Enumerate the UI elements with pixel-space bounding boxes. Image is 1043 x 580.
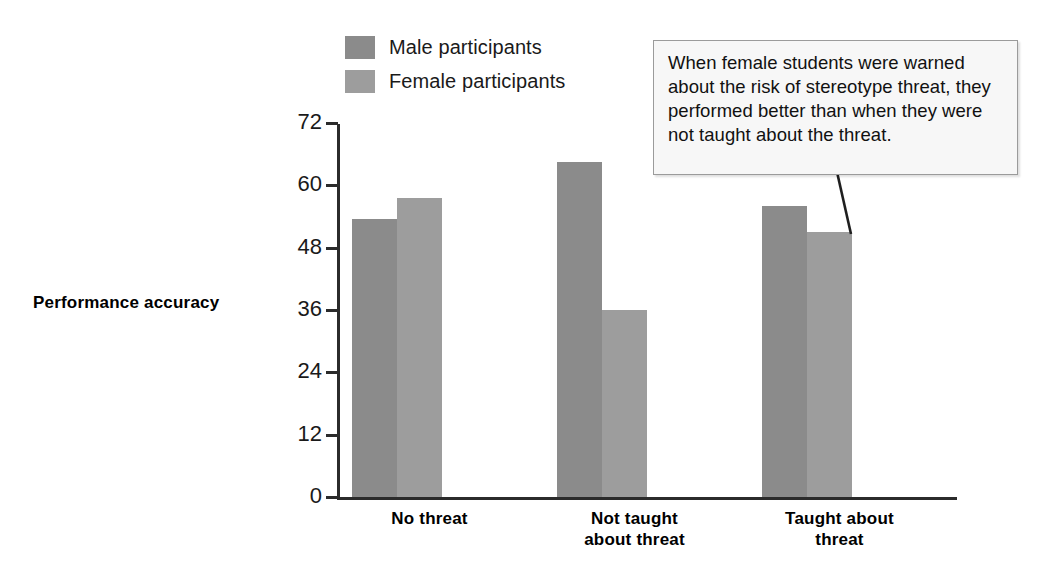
legend-swatch-female-icon — [345, 70, 375, 93]
callout-text: When female students were warned about t… — [668, 51, 1008, 147]
bar-female-group-1 — [602, 310, 647, 497]
x-axis-label-1: Not taughtabout threat — [537, 508, 732, 550]
y-tick-label: 72 — [276, 111, 322, 133]
bar-male-group-0 — [352, 219, 397, 497]
x-axis-label-0: No threat — [332, 508, 527, 529]
y-tick-label: 12 — [276, 423, 322, 445]
legend-label-male: Male participants — [389, 36, 542, 59]
legend-swatch-male-icon — [345, 36, 375, 59]
y-tick-label: 24 — [276, 360, 322, 382]
callout-box: When female students were warned about t… — [653, 40, 1018, 175]
y-tick-mark — [326, 371, 338, 374]
bar-male-group-2 — [762, 206, 807, 497]
y-tick-mark — [326, 184, 338, 187]
y-axis-title: Performance accuracy — [33, 293, 219, 313]
bar-female-group-2 — [807, 232, 852, 497]
y-tick-mark — [326, 434, 338, 437]
legend-label-female: Female participants — [389, 70, 565, 93]
y-tick-mark — [326, 247, 338, 250]
chart-legend: Male participants Female participants — [345, 33, 565, 95]
bar-female-group-0 — [397, 198, 442, 497]
y-tick-label: 0 — [276, 485, 322, 507]
x-axis-label-2: Taught aboutthreat — [742, 508, 937, 550]
y-tick-mark — [326, 122, 338, 125]
y-tick-label: 36 — [276, 298, 322, 320]
x-axis-labels: No threatNot taughtabout threatTaught ab… — [290, 508, 960, 568]
y-tick-mark — [326, 309, 338, 312]
y-tick-mark — [326, 496, 338, 499]
y-tick-label: 48 — [276, 236, 322, 258]
x-axis-line — [337, 497, 957, 500]
bar-male-group-1 — [557, 162, 602, 497]
y-tick-label: 60 — [276, 173, 322, 195]
legend-item-female: Female participants — [345, 67, 565, 95]
legend-item-male: Male participants — [345, 33, 565, 61]
